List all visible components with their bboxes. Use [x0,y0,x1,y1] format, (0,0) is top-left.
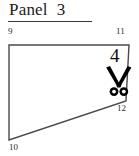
vertex-label-bottom-left: 10 [9,142,18,152]
panel-figure: Panel 3 9 11 12 10 4 [0,0,139,156]
scissors-icon [105,65,133,97]
cut-marker: 4 [104,48,134,98]
cut-marker-number: 4 [110,46,120,66]
vertex-label-top-right: 11 [116,26,125,36]
vertex-label-top-left: 9 [8,26,13,36]
vertex-label-bottom-right: 12 [117,103,126,113]
